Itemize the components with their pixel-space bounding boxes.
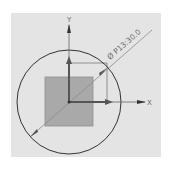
x-axis-label: X xyxy=(147,99,152,107)
origin-point xyxy=(68,101,71,104)
y-axis-label: Y xyxy=(66,16,72,24)
y-direction-arrow-icon xyxy=(66,56,72,64)
dimension-arrow-lower xyxy=(30,129,38,137)
diameter-dimension-label[interactable]: Ø P13:30.0 xyxy=(105,27,142,61)
x-direction-arrow-icon xyxy=(105,99,113,105)
y-axis-arrow-icon xyxy=(67,24,71,33)
sketch-drawing: Y X Ø P13:30.0 xyxy=(0,0,172,169)
dimension-arrow-upper xyxy=(99,68,107,76)
x-axis-arrow-icon xyxy=(137,100,146,104)
